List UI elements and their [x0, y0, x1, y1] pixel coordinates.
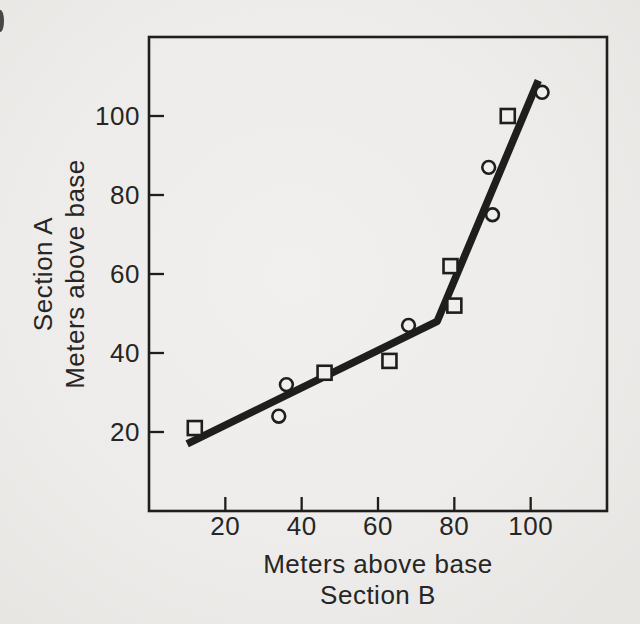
scanned-figure-page: 2040608010020406080100Meters above baseS… — [0, 0, 640, 624]
x-tick-label: 60 — [363, 511, 393, 541]
data-point-circle — [536, 86, 549, 99]
data-point-square — [444, 259, 458, 273]
data-point-square — [318, 366, 332, 380]
data-point-circle — [482, 161, 495, 174]
x-axis-title-line: Section B — [320, 580, 436, 610]
x-tick-label: 80 — [439, 511, 469, 541]
x-tick-label: 100 — [508, 511, 553, 541]
data-point-square — [447, 299, 461, 313]
data-point-circle — [272, 410, 285, 423]
y-tick-label: 100 — [95, 101, 140, 131]
y-tick-label: 40 — [110, 338, 140, 368]
data-point-circle — [402, 319, 415, 332]
section-correlation-chart: 2040608010020406080100Meters above baseS… — [0, 0, 640, 624]
plot-border — [149, 37, 607, 511]
x-tick-label: 40 — [287, 511, 317, 541]
y-tick-label: 20 — [110, 417, 140, 447]
data-point-circle — [486, 208, 499, 221]
y-tick-label: 80 — [110, 180, 140, 210]
data-point-square — [188, 421, 202, 435]
y-tick-label: 60 — [110, 259, 140, 289]
x-tick-label: 20 — [210, 511, 240, 541]
y-axis-title-line: Section A — [28, 217, 58, 332]
data-point-square — [382, 354, 396, 368]
fit-line — [187, 80, 538, 443]
data-point-circle — [280, 378, 293, 391]
y-axis-title-line: Meters above base — [60, 159, 90, 389]
x-axis-title-line: Meters above base — [263, 549, 493, 579]
data-point-square — [501, 109, 515, 123]
